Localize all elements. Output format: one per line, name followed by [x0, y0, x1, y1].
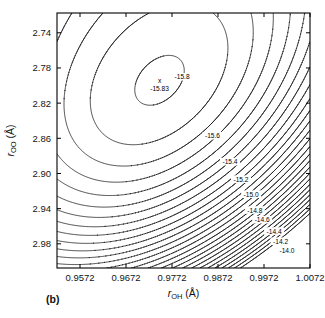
contour-line: [205, 130, 206, 131]
contour-line: [142, 241, 144, 242]
contour-line: [224, 166, 225, 167]
contour-line: [260, 233, 261, 234]
contour-line: [285, 174, 286, 175]
contour-line: [170, 230, 171, 231]
contour-line: [198, 264, 199, 265]
contour-line: [292, 179, 293, 180]
contour-line: [235, 116, 236, 117]
contour-line: [243, 123, 244, 124]
contour-line: [236, 258, 237, 259]
contour-line: [182, 242, 183, 243]
contour-line: [228, 221, 229, 222]
contour-line: [172, 242, 173, 243]
contour-line: [262, 189, 263, 190]
contour-line: [279, 218, 280, 219]
contour-line: [287, 229, 288, 230]
contour-line: [210, 243, 211, 244]
contour-line: [184, 146, 185, 147]
contour-line: [235, 227, 236, 228]
contour-line: [294, 199, 295, 200]
contour-line: [157, 206, 158, 207]
contour-line: [228, 103, 229, 104]
contour-line: [212, 247, 213, 248]
contour-line: [170, 154, 171, 155]
contour-line: [294, 177, 295, 178]
contour-line: [170, 168, 171, 169]
contour-plot: -15.8-15.6-15.4-15.2-15.0-14.8-14.6-14.4…: [0, 0, 325, 318]
contour-label: -14.6: [255, 216, 270, 223]
contour-line: [226, 261, 227, 262]
contour-line: [287, 171, 288, 172]
contour-line: [221, 131, 222, 132]
y-tick-label: 2.94: [33, 203, 52, 214]
contour-line: [242, 242, 243, 243]
contour-line: [182, 162, 183, 163]
contour-line: [208, 178, 209, 179]
contour-line: [288, 156, 289, 157]
contour-line: [217, 234, 218, 235]
contour-line: [161, 158, 162, 159]
contour-line: [234, 264, 235, 265]
contour-line: [236, 221, 237, 222]
figure-panel: -15.8-15.6-15.4-15.2-15.0-14.8-14.6-14.4…: [0, 0, 325, 318]
contour-line: [156, 140, 158, 141]
contour-line: [151, 231, 153, 232]
contour-line: [220, 260, 221, 261]
contour-line: [265, 172, 266, 173]
contour-line: [182, 225, 183, 226]
contour-line: [281, 221, 282, 222]
contour-line: [217, 189, 218, 190]
contour-line: [214, 241, 215, 242]
contour-line: [226, 182, 227, 183]
contour-line: [158, 242, 159, 243]
contour-line: [205, 256, 206, 257]
contour-line: [195, 138, 196, 139]
contour-line: [241, 161, 242, 162]
contour-line: [292, 143, 293, 144]
contour-line: [171, 230, 172, 231]
contour-line: [259, 250, 260, 251]
contour-line: [245, 244, 246, 245]
contour-label: -14.0: [279, 247, 294, 254]
contour-line: [282, 176, 283, 177]
contour-line: [199, 250, 200, 251]
contour-line: [247, 234, 248, 235]
contour-line: [221, 226, 222, 227]
contour-line: [280, 129, 281, 130]
x-tick-label: 0.9572: [65, 272, 94, 283]
contour-line: [186, 182, 187, 183]
contour-line: [212, 265, 213, 266]
contour-line: [286, 196, 287, 197]
contour-line: [170, 97, 171, 98]
contour-line: [284, 181, 285, 182]
contour-line: [147, 246, 149, 247]
contour-line: [162, 138, 163, 139]
contour-line: [205, 236, 206, 237]
contour-line: [201, 200, 202, 201]
contour-line: [290, 181, 291, 182]
contour-line: [262, 188, 263, 189]
contour-line: [146, 226, 148, 227]
contour-line: [244, 240, 245, 241]
contour-line: [224, 239, 225, 240]
contour-line: [265, 204, 266, 205]
contour-line: [238, 143, 239, 144]
panel-label: (b): [46, 293, 59, 305]
contour-line: [159, 173, 160, 174]
contour-line: [236, 231, 237, 232]
contour-line: [252, 243, 253, 244]
contour-line: [303, 210, 304, 211]
contour-line: [161, 204, 162, 205]
contour-line: [297, 225, 298, 226]
contour-line: [255, 181, 256, 182]
contour-line: [258, 170, 259, 171]
contour-line: [305, 127, 306, 128]
contour-line: [213, 174, 214, 175]
contour-line: [306, 135, 307, 136]
contour-line: [301, 198, 302, 199]
contour-line: [180, 195, 181, 196]
contour-line: [185, 246, 186, 247]
contour-line: [273, 114, 274, 115]
contour-line: [249, 217, 250, 218]
contour-line: [243, 231, 244, 232]
